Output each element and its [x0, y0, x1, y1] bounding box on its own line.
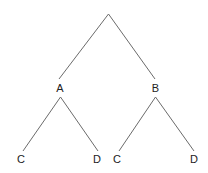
node-label-b-d: D [190, 153, 198, 165]
edge-root-b [109, 14, 156, 79]
tree-diagram: A B C D C D [0, 0, 208, 173]
node-label-a-c: C [17, 153, 25, 165]
node-label-b-c: C [113, 153, 121, 165]
edges [23, 14, 194, 151]
edge-root-a [59, 14, 109, 79]
edge-a-d [61, 97, 99, 151]
node-labels: A B C D C D [17, 82, 198, 165]
node-label-b: B [152, 82, 159, 94]
edge-b-d [156, 97, 195, 151]
node-label-a: A [56, 82, 64, 94]
node-label-a-d: D [93, 153, 101, 165]
edge-a-c [23, 97, 61, 151]
edge-b-c [119, 97, 156, 151]
